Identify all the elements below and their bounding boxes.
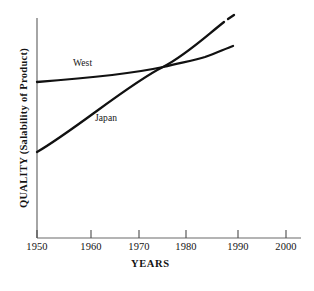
- series-label-japan: Japan: [95, 113, 117, 123]
- series-line-japan-tip: [228, 15, 234, 19]
- y-axis-title: QUALITY (Salability of Product): [18, 48, 29, 208]
- x-tick-label-2000: 2000: [271, 241, 301, 252]
- series-label-west: West: [73, 58, 92, 68]
- x-axis-title: YEARS: [131, 258, 170, 269]
- x-tick-label-1970: 1970: [124, 241, 154, 252]
- x-tick-label-1990: 1990: [223, 241, 253, 252]
- series-line-japan: [37, 22, 224, 152]
- x-axis-ticks: [37, 230, 286, 238]
- series-line-west: [37, 46, 233, 82]
- quality-vs-years-chart: 1950 1960 1970 1980 1990 2000 YEARS QUAL…: [0, 0, 314, 291]
- x-tick-label-1980: 1980: [171, 241, 201, 252]
- x-tick-label-1950: 1950: [22, 241, 52, 252]
- x-tick-label-1960: 1960: [76, 241, 106, 252]
